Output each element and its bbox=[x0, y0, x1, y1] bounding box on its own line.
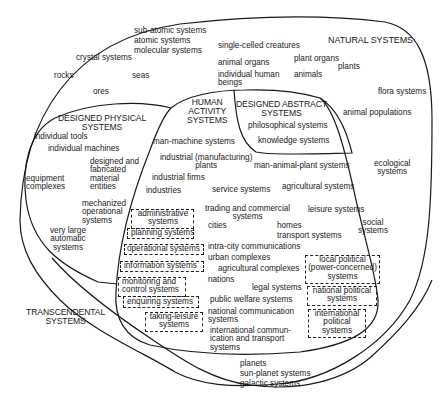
label-monitoring-control: monitoring and control systems bbox=[122, 278, 179, 295]
label-atomic: atomic systems bbox=[134, 37, 190, 45]
label-planets: planets bbox=[240, 360, 266, 368]
label-taking-leisure: taking-leisure systems bbox=[147, 313, 201, 330]
label-agricultural-complexes: agricultural complexes bbox=[218, 265, 299, 273]
label-animal-organs: animal organs bbox=[218, 59, 269, 67]
label-designed-fabricated: designed and fabricated material entitie… bbox=[90, 158, 139, 192]
label-planning: planning systems bbox=[131, 229, 194, 237]
label-molecular: molecular systems bbox=[134, 47, 202, 55]
label-equipment-complexes: equipment complexes bbox=[26, 175, 65, 192]
label-industrial-plants: industrial (manufacturing) plants bbox=[160, 154, 252, 171]
label-ecological-systems: ecological systems bbox=[374, 160, 410, 177]
label-philosophical: philosophical systems bbox=[248, 122, 328, 130]
label-agricultural-systems: agricultural systems bbox=[282, 183, 354, 191]
label-animals: animals bbox=[294, 71, 322, 79]
label-national-political: national political systems bbox=[308, 287, 376, 304]
label-cities: cities bbox=[208, 222, 227, 230]
label-knowledge: knowledge systems bbox=[258, 137, 329, 145]
label-administrative: administrative systems bbox=[136, 210, 190, 227]
transcendental-title: TRANSCENDENTAL SYSTEMS bbox=[26, 308, 105, 326]
label-homes: homes bbox=[277, 222, 302, 230]
label-leisure-systems: leisure systems bbox=[308, 206, 364, 214]
human-activity-title: HUMAN ACTIVITY SYSTEMS bbox=[187, 98, 227, 124]
label-intra-city: intra-city communications bbox=[208, 243, 300, 251]
label-sun-planet: sun-planet systems bbox=[240, 370, 311, 378]
natural-systems-title: NATURAL SYSTEMS bbox=[328, 36, 413, 45]
label-single-celled: single-celled creatures bbox=[218, 42, 300, 50]
label-national-communication: national communication systems bbox=[208, 308, 294, 325]
label-information: information systems bbox=[124, 262, 197, 270]
label-ores: ores bbox=[93, 88, 109, 96]
label-operational: operational systems bbox=[127, 245, 200, 253]
label-public-welfare: public welfare systems bbox=[210, 296, 292, 304]
label-rocks: rocks bbox=[54, 72, 74, 80]
label-industrial-firms: industrial firms bbox=[152, 174, 205, 182]
label-service-systems: service systems bbox=[212, 186, 270, 194]
label-galactic: galactic systems bbox=[240, 380, 300, 388]
label-individual-machines: individual machines bbox=[48, 145, 119, 153]
label-seas: seas bbox=[132, 72, 149, 80]
label-crystal: crystal systems bbox=[76, 54, 132, 62]
label-man-machine: man-machine systems bbox=[153, 138, 235, 146]
label-mechanized-operational: mechanized operational systems bbox=[82, 200, 126, 225]
label-urban-complexes: urban complexes bbox=[208, 254, 270, 262]
label-sub-atomic: sub-atomic systems bbox=[134, 27, 206, 35]
label-industries: industries bbox=[146, 187, 181, 195]
label-plants: plants bbox=[338, 63, 360, 71]
label-individual-tools: individual tools bbox=[34, 133, 88, 141]
label-animal-populations: animal populations bbox=[343, 109, 411, 117]
label-international-communication: international commun- ication and transp… bbox=[210, 327, 291, 352]
label-plant-organs: plant organs bbox=[294, 55, 339, 63]
label-trading-commercial: trading and commercial systems bbox=[205, 205, 290, 222]
label-social-systems: social systems bbox=[358, 219, 388, 236]
designed-abstract-title: DESIGNED ABSTRACT SYSTEMS bbox=[236, 100, 327, 118]
label-man-animal-plant: man-animal-plant systems bbox=[254, 162, 350, 170]
label-transport-systems: transport systems bbox=[277, 232, 342, 240]
label-individual-human-beings: individual human beings bbox=[218, 71, 279, 88]
label-legal-systems: legal systems bbox=[252, 284, 302, 292]
label-very-large-automatic: very large automatic systems bbox=[50, 227, 86, 252]
label-nations: nations bbox=[208, 276, 234, 284]
label-international-political: international political systems bbox=[309, 310, 365, 335]
label-flora-systems: flora systems bbox=[378, 88, 426, 96]
label-enquiring: enquiring systems bbox=[127, 298, 193, 306]
label-local-political: local political (power-concerned) system… bbox=[306, 256, 379, 281]
systems-map-diagram: NATURAL SYSTEMS sub-atomic systems atomi… bbox=[0, 0, 446, 408]
designed-physical-title: DESIGNED PHYSICAL SYSTEMS bbox=[58, 114, 146, 132]
